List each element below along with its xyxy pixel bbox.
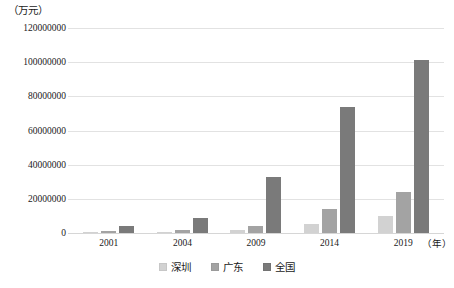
- bar: [193, 218, 208, 233]
- bar-group: [72, 28, 146, 233]
- y-axis-unit-label: （万元）: [8, 2, 48, 17]
- bar: [230, 230, 245, 233]
- bar-group: [366, 28, 440, 233]
- y-axis-tick-label: 100000000: [0, 57, 66, 67]
- bar-group: [293, 28, 367, 233]
- y-axis-tick-label: 80000000: [0, 91, 66, 101]
- y-axis-tick-label: 120000000: [0, 23, 66, 33]
- x-axis-tick-label: 2009: [219, 234, 293, 252]
- legend-swatch-icon: [263, 263, 271, 271]
- legend-item[interactable]: 深圳: [159, 259, 191, 274]
- x-axis: 20012004200920142019: [68, 234, 444, 252]
- legend-label: 深圳: [171, 259, 191, 274]
- x-axis-unit-label: （年）: [422, 236, 452, 250]
- chart-legend: 深圳广东全国: [0, 259, 454, 274]
- legend-swatch-icon: [159, 263, 167, 271]
- legend-item[interactable]: 广东: [211, 259, 243, 274]
- legend-swatch-icon: [211, 263, 219, 271]
- bar: [119, 226, 134, 233]
- bar: [378, 216, 393, 233]
- legend-item[interactable]: 全国: [263, 259, 295, 274]
- x-axis-tick-label: 2004: [146, 234, 220, 252]
- legend-label: 广东: [223, 259, 243, 274]
- bar: [414, 60, 429, 233]
- bar: [157, 232, 172, 233]
- y-axis-tick-label: 40000000: [0, 160, 66, 170]
- bar-group: [219, 28, 293, 233]
- bar: [101, 231, 116, 233]
- bar: [175, 230, 190, 233]
- bar: [83, 232, 98, 233]
- bar: [340, 107, 355, 233]
- y-axis-tick-label: 60000000: [0, 126, 66, 136]
- bar: [304, 224, 319, 233]
- y-axis-tick-label: 20000000: [0, 194, 66, 204]
- y-axis: 0200000004000000060000000800000001000000…: [0, 28, 66, 233]
- bar-chart: （万元） 02000000040000000600000008000000010…: [0, 0, 454, 288]
- bar: [266, 177, 281, 233]
- bar: [396, 192, 411, 233]
- x-axis-tick-label: 2014: [293, 234, 367, 252]
- bar-groups: [68, 28, 444, 233]
- bar-group: [146, 28, 220, 233]
- y-axis-tick-label: 0: [0, 228, 66, 238]
- legend-label: 全国: [275, 259, 295, 274]
- bar: [322, 209, 337, 233]
- bar: [248, 226, 263, 233]
- x-axis-tick-label: 2001: [72, 234, 146, 252]
- plot-area: [68, 28, 444, 233]
